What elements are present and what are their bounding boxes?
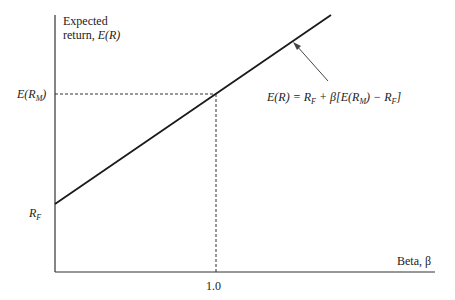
x-axis-label: Beta, β	[397, 254, 431, 268]
eq-part1: E(R) = R	[267, 90, 311, 104]
y-axis-label: Expected return, E(R)	[63, 14, 120, 42]
y-tick-erm: E(RM)	[17, 87, 46, 101]
y-axis-label-line2: return, E(R)	[63, 28, 120, 42]
y-axis-label-var: E(R)	[98, 28, 121, 42]
erm-close: )	[42, 87, 46, 101]
security-market-line	[55, 15, 331, 204]
x-tick-one: 1.0	[206, 279, 221, 293]
erm-text: E(R	[17, 87, 36, 101]
y-axis-label-prefix: return,	[63, 28, 98, 42]
eq-part4: ]	[396, 90, 401, 104]
eq-part2: + β[E(R	[316, 90, 359, 104]
y-axis-label-line1: Expected	[63, 14, 120, 28]
eq-part3: ) − R	[366, 90, 391, 104]
y-tick-rf: RF	[29, 206, 41, 220]
sml-equation: E(R) = RF + β[E(RM) − RF]	[267, 90, 401, 104]
rf-subscript: F	[36, 213, 41, 222]
chart-canvas	[0, 0, 455, 300]
annotation-arrow-shaft	[296, 45, 328, 81]
